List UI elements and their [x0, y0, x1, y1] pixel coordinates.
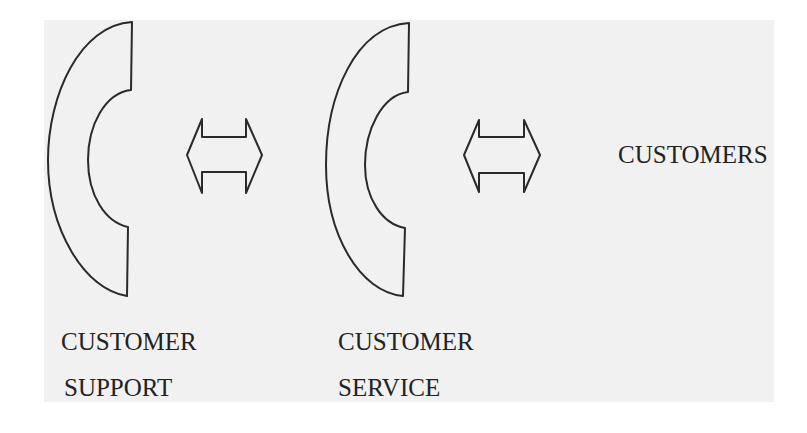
bidirectional-arrow-service-customers [464, 120, 540, 192]
customers-label: CUSTOMERS [618, 142, 768, 167]
customer-service-telephone-handset-icon [326, 23, 409, 296]
bidirectional-arrow-support-service [187, 119, 262, 193]
customer-support-label-line1: CUSTOMER [61, 329, 197, 354]
customer-service-label-line2: SERVICE [338, 375, 440, 400]
customer-service-label-line1: CUSTOMER [338, 329, 474, 354]
customer-support-label-line2: SUPPORT [64, 375, 172, 400]
customer-support-telephone-handset-icon [48, 22, 132, 296]
diagram-canvas [0, 0, 807, 433]
